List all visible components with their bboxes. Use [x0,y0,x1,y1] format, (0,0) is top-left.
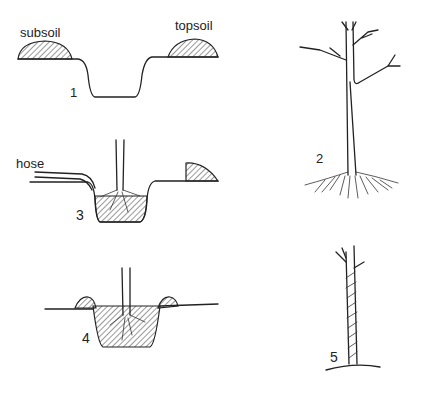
tree-roots [305,172,398,198]
topsoil-pile [168,39,218,57]
tree-stem-3 [116,140,124,190]
subsoil-pile [18,41,72,59]
step-number-5: 5 [330,349,338,365]
ground-profile-1 [18,57,218,97]
panel-1-hole: subsoil topsoil 1 [18,18,218,100]
backfill-soil-4 [93,306,160,347]
remaining-topsoil [186,163,218,181]
hose [35,172,95,190]
panel-4-backfilled: 4 [45,268,218,347]
tree-trunk [346,22,388,175]
step-number-4: 4 [82,330,90,346]
panel-5-wrapped-trunk: 5 [326,246,380,370]
step-number-3: 3 [76,207,84,223]
tree-branches [300,22,400,66]
panel-2-bare-root-tree: 2 [300,22,400,198]
trunk-top-branches [336,248,364,268]
step-number-2: 2 [316,151,323,166]
topsoil-label: topsoil [175,18,213,33]
subsoil-label: subsoil [20,25,61,40]
ridge-right [158,297,178,308]
panel-3-watering: hose 3 [16,140,218,223]
tree-planting-diagram: subsoil topsoil 1 2 hose 3 4 5 [0,0,424,397]
hose-label: hose [16,156,44,171]
ground-line-5 [326,365,380,370]
backfill-soil-3 [95,196,147,222]
step-number-1: 1 [70,85,77,100]
